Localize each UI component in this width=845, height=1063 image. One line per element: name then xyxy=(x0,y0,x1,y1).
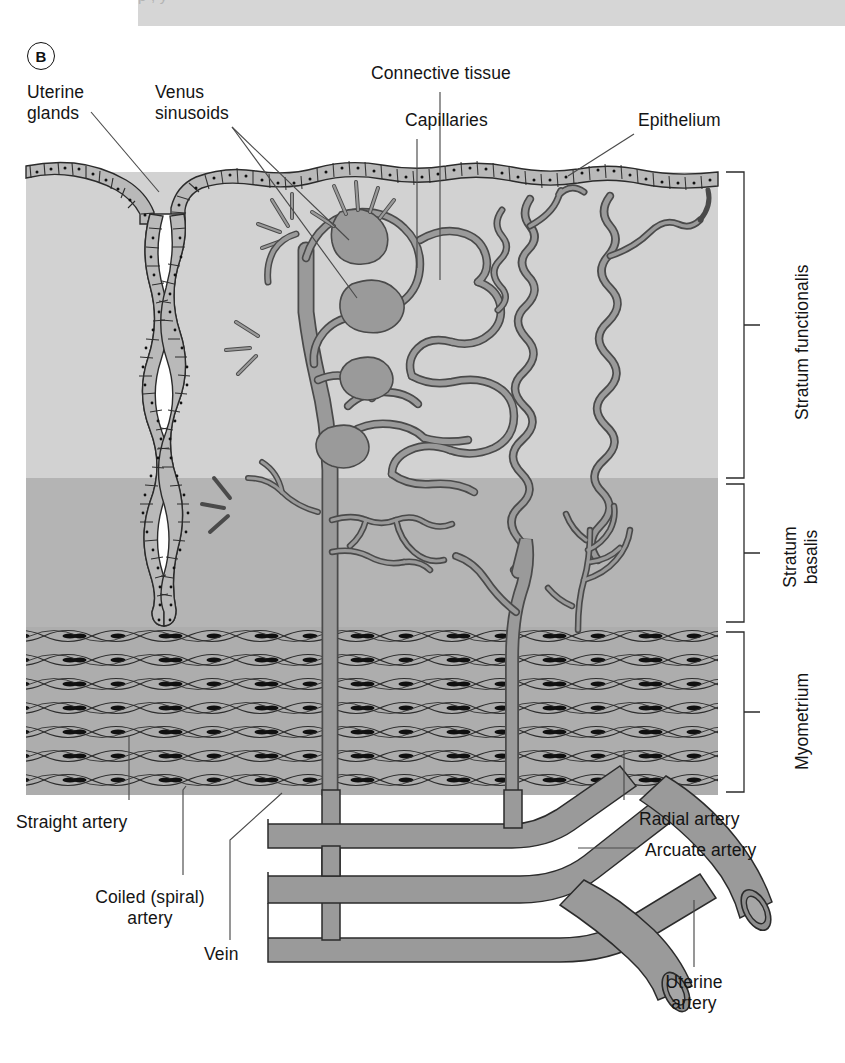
label-venus-sinusoids: Venus sinusoids xyxy=(155,82,229,124)
label-uterine-glands: Uterine glands xyxy=(27,82,84,124)
label-connective-tissue: Connective tissue xyxy=(371,63,511,84)
leader-coiled-spiral-artery xyxy=(183,786,186,875)
label-straight-artery: Straight artery xyxy=(16,812,127,833)
layer-brackets xyxy=(726,172,760,792)
label-capillaries: Capillaries xyxy=(405,110,488,131)
label-myometrium: Myometrium xyxy=(792,673,813,770)
label-arcuate-artery: Arcuate artery xyxy=(645,840,756,861)
label-stratum-functionalis: Stratum functionalis xyxy=(792,264,813,420)
bracket-stratum-basalis xyxy=(726,484,760,622)
figure-panel: p , y B xyxy=(0,0,845,1063)
bracket-stratum-functionalis xyxy=(726,172,760,478)
tissue-layers xyxy=(26,172,718,795)
label-radial-artery: Radial artery xyxy=(639,809,740,830)
label-uterine-artery: Uterine artery xyxy=(629,972,759,1014)
label-stratum-basalis: Stratum basalis xyxy=(780,502,822,612)
bracket-myometrium xyxy=(726,632,760,792)
label-coiled-spiral-artery: Coiled (spiral) artery xyxy=(60,887,240,929)
label-vein: Vein xyxy=(204,944,238,965)
label-epithelium: Epithelium xyxy=(638,110,721,131)
